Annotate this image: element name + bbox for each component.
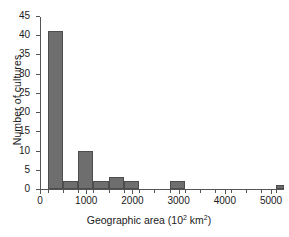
x-tick-label-1000: 1000 [75, 195, 97, 206]
x-tick-0 [40, 190, 41, 194]
histogram-bar [124, 181, 139, 189]
x-tick-1000 [86, 190, 87, 194]
x-tick-2000 [132, 190, 133, 194]
x-minor-tick-1485 [109, 190, 110, 193]
histogram-bar [93, 181, 108, 189]
y-tick-label-35: 35 [19, 48, 30, 59]
x-minor-tick-1155 [93, 190, 94, 193]
x-axis-line [40, 189, 284, 190]
histogram-figure: Number of cultures Geographic area (102 … [0, 0, 289, 237]
y-tick-30: 30 [36, 74, 40, 75]
x-minor-tick-5115 [276, 190, 277, 193]
histogram-bar [63, 181, 78, 189]
x-minor-tick-3135 [185, 190, 186, 193]
y-tick-label-20: 20 [19, 106, 30, 117]
x-axis-title-main: Geographic area (10 [87, 214, 183, 226]
x-minor-tick-4785 [261, 190, 262, 193]
x-minor-tick-165 [48, 190, 49, 193]
x-minor-tick-4455 [246, 190, 247, 193]
y-tick-label-0: 0 [24, 183, 30, 194]
x-axis-title-close: ) [208, 214, 212, 226]
histogram-bar [48, 31, 63, 189]
x-axis-title-mid: km [187, 214, 204, 226]
x-tick-label-5000: 5000 [260, 195, 282, 206]
y-tick-35: 35 [36, 54, 40, 55]
y-tick-label-25: 25 [19, 87, 30, 98]
x-tick-5000 [271, 190, 272, 194]
histogram-bar [109, 177, 124, 189]
x-minor-tick-2805 [170, 190, 171, 193]
y-tick-25: 25 [36, 93, 40, 94]
y-tick-label-30: 30 [19, 68, 30, 79]
histogram-bar [276, 185, 284, 189]
x-tick-label-4000: 4000 [214, 195, 236, 206]
histogram-bar [78, 151, 93, 189]
x-minor-tick-3465 [200, 190, 201, 193]
x-minor-tick-4125 [231, 190, 232, 193]
x-tick-3000 [179, 190, 180, 194]
x-tick-label-3000: 3000 [168, 195, 190, 206]
x-minor-tick-3795 [215, 190, 216, 193]
histogram-bar [170, 181, 185, 189]
x-minor-tick-495 [63, 190, 64, 193]
y-tick-15: 15 [36, 131, 40, 132]
x-tick-4000 [225, 190, 226, 194]
x-axis-title: Geographic area (102 km2) [18, 214, 280, 226]
x-tick-label-0: 0 [37, 195, 43, 206]
y-tick-20: 20 [36, 112, 40, 113]
x-tick-label-2000: 2000 [121, 195, 143, 206]
y-tick-label-5: 5 [24, 164, 30, 175]
y-tick-label-10: 10 [19, 145, 30, 156]
x-minor-tick-2145 [139, 190, 140, 193]
x-minor-tick-825 [78, 190, 79, 193]
x-minor-tick-2475 [154, 190, 155, 193]
y-tick-45: 45 [36, 16, 40, 17]
x-minor-tick-1815 [124, 190, 125, 193]
y-tick-label-40: 40 [19, 29, 30, 40]
y-tick-10: 10 [36, 151, 40, 152]
plot-area: 051015202530354045 010002000300040005000 [40, 17, 284, 190]
y-axis-line [40, 17, 41, 190]
y-axis-title: Number of cultures [11, 20, 23, 180]
y-tick-label-15: 15 [19, 125, 30, 136]
y-tick-40: 40 [36, 35, 40, 36]
y-tick-5: 5 [36, 170, 40, 171]
y-tick-label-45: 45 [19, 10, 30, 21]
